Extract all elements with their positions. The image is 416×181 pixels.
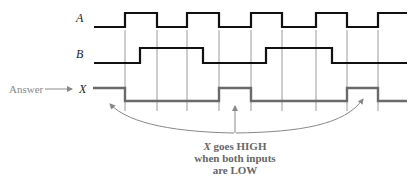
signal-label-b: B [76,47,84,61]
curved-arrow-left-icon [110,104,234,133]
waveform-x [93,88,407,101]
waveform-a [94,13,407,27]
timing-diagram: A B X Answer X goes HIGH when both input… [0,0,416,181]
signal-label-x: X [78,82,87,96]
curved-arrow-right-icon [236,99,363,133]
signal-label-a: A [75,11,84,25]
note-line-1: X goes HIGH [203,140,267,152]
note-line-3: are LOW [213,164,258,176]
answer-label: Answer [9,83,44,95]
note-line-2: when both inputs [194,152,276,164]
